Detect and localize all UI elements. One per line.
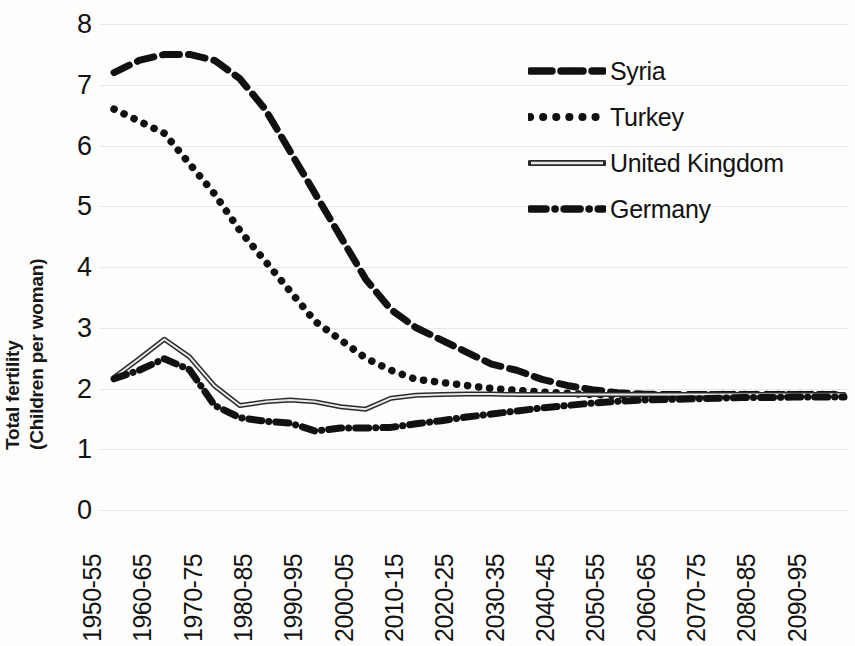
fertility-line-chart: Total fertility (Children per woman) 876… [0,0,855,646]
y-axis-tick-0: 0 [52,497,92,524]
y-axis-tick-2: 2 [52,375,92,402]
legend: SyriaTurkeyUnited KingdomGermany [528,48,838,232]
x-axis-tick-2010-15: 2010-15 [382,554,407,642]
x-axis-tick-2070-75: 2070-75 [684,554,709,642]
solid-line-icon [528,154,606,172]
x-axis-tick-2060-65: 2060-65 [634,554,659,642]
y-axis-tick-3: 3 [52,314,92,341]
x-axis-tick-2040-45: 2040-45 [533,554,558,642]
x-axis-tick-1950-55: 1950-55 [80,554,105,642]
x-axis-tick-1970-75: 1970-75 [181,554,206,642]
y-axis-tick-8: 8 [52,11,92,38]
y-axis-tick-5: 5 [52,193,92,220]
x-axis-tick-2090-95: 2090-95 [785,554,810,642]
legend-label: Germany [610,197,711,222]
gridline [100,510,848,511]
x-axis-tick-1960-65: 1960-65 [130,554,155,642]
legend-item-united-kingdom[interactable]: United Kingdom [528,140,838,186]
x-axis-tick-1980-85: 1980-85 [231,554,256,642]
y-axis-tick-4: 4 [52,254,92,281]
y-axis-title-line-1: Total fertility [2,340,24,450]
x-axis-tick-2050-55: 2050-55 [583,554,608,642]
y-axis-tick-labels: 876543210 [48,0,92,646]
y-axis-tick-1: 1 [52,436,92,463]
x-axis-tick-1990-95: 1990-95 [281,554,306,642]
legend-label: Syria [610,59,665,84]
x-axis-tick-2020-25: 2020-25 [432,554,457,642]
y-axis-tick-6: 6 [52,132,92,159]
y-axis-title: Total fertility (Children per woman) [2,150,54,450]
y-axis-tick-7: 7 [52,71,92,98]
x-axis-tick-2030-35: 2030-35 [483,554,508,642]
y-axis-title-line-2: (Children per woman) [26,259,48,450]
x-axis-tick-2000-05: 2000-05 [332,554,357,642]
x-axis-tick-labels: 1950-551960-651970-751980-851990-952000-… [100,512,848,642]
legend-item-syria[interactable]: Syria [528,48,838,94]
dotted-line-icon [528,108,606,126]
long-dash-line-icon [528,62,606,80]
legend-label: Turkey [610,105,684,130]
dash-dot-line-icon [528,200,606,218]
x-axis-tick-2080-85: 2080-85 [734,554,759,642]
legend-item-germany[interactable]: Germany [528,186,838,232]
legend-item-turkey[interactable]: Turkey [528,94,838,140]
legend-label: United Kingdom [610,151,784,176]
